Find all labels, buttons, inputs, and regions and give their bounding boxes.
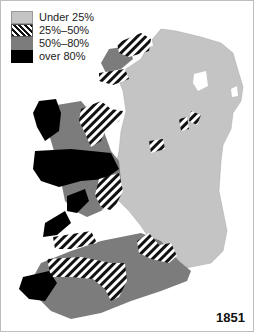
legend-item-over-80: over 80% [11,50,94,63]
legend-item-25-50: 25%–50% [11,24,94,37]
map-year: 1851 [216,310,245,325]
legend-swatch [11,37,33,50]
legend-label: 25%–50% [39,24,89,37]
legend-label: 50%–80% [39,37,89,50]
legend-label: Under 25% [39,11,94,24]
legend-item-50-80: 50%–80% [11,37,94,50]
legend-swatch [11,50,33,63]
legend-swatch [11,24,33,37]
map-figure: Under 25% 25%–50% 50%–80% over 80% 1851 [0,0,254,332]
map-legend: Under 25% 25%–50% 50%–80% over 80% [11,11,94,63]
legend-swatch [11,11,33,24]
legend-item-under-25: Under 25% [11,11,94,24]
legend-label: over 80% [39,50,85,63]
region-under-25 [113,29,243,269]
